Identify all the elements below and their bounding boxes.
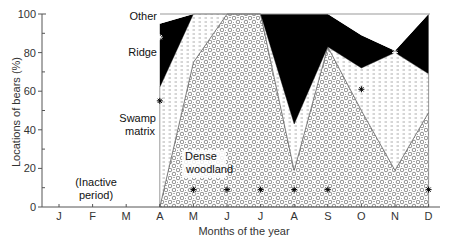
x-tick-label: N — [391, 210, 399, 222]
x-tick-label: S — [324, 210, 331, 222]
star-marker-icon — [325, 187, 331, 193]
star-marker-icon — [190, 187, 196, 193]
x-tick-label: J — [258, 210, 264, 222]
y-axis-title: Locations of bears (%) — [10, 57, 22, 167]
y-tick-label: 40 — [24, 124, 36, 136]
ridge-label: Ridge — [128, 46, 157, 58]
bear-locations-chart: 020406080100JFMAMJJASOND Locations of be… — [0, 0, 458, 244]
star-marker-icon — [157, 98, 163, 104]
star-marker-icon — [426, 187, 432, 193]
x-tick-label: D — [425, 210, 433, 222]
y-tick-label: 60 — [24, 85, 36, 97]
x-tick-label: J — [56, 210, 62, 222]
x-tick-label: O — [357, 210, 366, 222]
dense-woodland-label: Dense — [185, 150, 217, 162]
other-label: Other — [129, 10, 157, 22]
stacked-area-layers — [160, 14, 429, 207]
dense-woodland-label-2: woodland — [185, 163, 233, 175]
y-tick-label: 100 — [18, 8, 36, 20]
star-marker-icon — [358, 86, 364, 92]
y-tick-label: 80 — [24, 47, 36, 59]
y-tick-label: 0 — [30, 201, 36, 213]
y-tick-label: 20 — [24, 162, 36, 174]
inactive-period-label-2: period) — [79, 189, 113, 201]
star-marker-icon — [157, 34, 163, 40]
x-tick-label: M — [122, 210, 131, 222]
inactive-period-label: (Inactive — [75, 176, 117, 188]
star-marker-icon — [291, 187, 297, 193]
star-marker-icon — [392, 50, 398, 56]
swamp-matrix-label: Swamp — [119, 112, 156, 124]
star-marker-icon — [258, 187, 264, 193]
x-tick-label: A — [156, 210, 164, 222]
swamp-matrix-label-2: matrix — [125, 125, 155, 137]
star-marker-icon — [224, 187, 230, 193]
x-tick-label: F — [89, 210, 96, 222]
x-axis-title: Months of the year — [198, 225, 289, 237]
x-tick-label: M — [189, 210, 198, 222]
x-tick-label: A — [291, 210, 299, 222]
x-tick-label: J — [224, 210, 230, 222]
